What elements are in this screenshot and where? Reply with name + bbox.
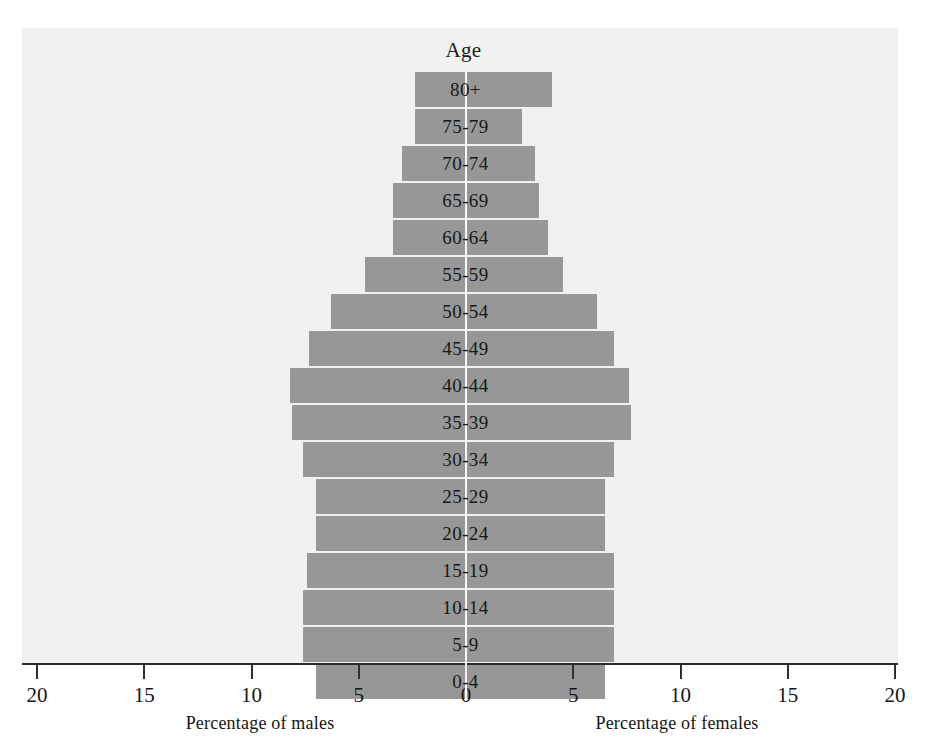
bar-segment-male — [307, 553, 466, 588]
center-axis-divider — [465, 72, 467, 701]
bar-segment-female — [466, 257, 563, 292]
chart-title-text: Age — [446, 38, 482, 62]
bar-segment-female — [466, 294, 597, 329]
x-axis-tick — [143, 665, 145, 679]
x-axis-tick-label: 15 — [758, 683, 818, 708]
bar-segment-female — [466, 331, 614, 366]
bar-segment-male — [309, 331, 466, 366]
bar-segment-female — [466, 590, 614, 625]
bar-segment-male — [316, 516, 466, 551]
x-axis-tick-label: 20 — [865, 683, 925, 708]
bar-segment-female — [466, 405, 631, 440]
x-axis-label-males: Percentage of males — [95, 713, 425, 734]
bar-segment-male — [290, 368, 466, 403]
bar-segment-female — [466, 220, 548, 255]
bar-segment-female — [466, 553, 614, 588]
bar-segment-male — [365, 257, 466, 292]
bar-segment-male — [393, 183, 466, 218]
bar-segment-female — [466, 479, 605, 514]
bar-segment-male — [292, 405, 466, 440]
bar-segment-male — [393, 220, 466, 255]
bar-segment-male — [303, 590, 466, 625]
bar-segment-female — [466, 72, 552, 107]
bar-segment-male — [303, 442, 466, 477]
x-axis-tick-label: 20 — [7, 683, 67, 708]
x-axis-tick-label: 10 — [651, 683, 711, 708]
x-axis-tick — [787, 665, 789, 679]
bar-segment-male — [316, 479, 466, 514]
bar-segment-female — [466, 627, 614, 662]
x-axis-tick-label: 5 — [329, 683, 389, 708]
x-axis-tick — [572, 665, 574, 679]
x-axis-tick — [680, 665, 682, 679]
x-axis-line — [22, 663, 898, 665]
chart-title: Age — [0, 38, 931, 63]
bar-segment-male — [331, 294, 466, 329]
x-axis-tick-label: 15 — [114, 683, 174, 708]
bar-segment-female — [466, 368, 629, 403]
x-axis-tick-label: 10 — [222, 683, 282, 708]
bar-segment-female — [466, 146, 535, 181]
bar-segment-female — [466, 183, 539, 218]
bar-segment-female — [466, 442, 614, 477]
x-axis-tick — [894, 665, 896, 679]
x-axis-tick — [36, 665, 38, 679]
bar-segment-male — [415, 109, 466, 144]
bar-segment-female — [466, 516, 605, 551]
bar-segment-male — [415, 72, 466, 107]
bar-segment-male — [402, 146, 466, 181]
x-axis-tick — [358, 665, 360, 679]
x-axis-label-females: Percentage of females — [512, 713, 842, 734]
x-axis-tick-label: 5 — [543, 683, 603, 708]
population-pyramid-chart: Age 80+75-7970-7465-6960-6455-5950-5445-… — [0, 0, 931, 748]
x-axis-tick — [251, 665, 253, 679]
bar-segment-male — [303, 627, 466, 662]
bar-segment-female — [466, 109, 522, 144]
